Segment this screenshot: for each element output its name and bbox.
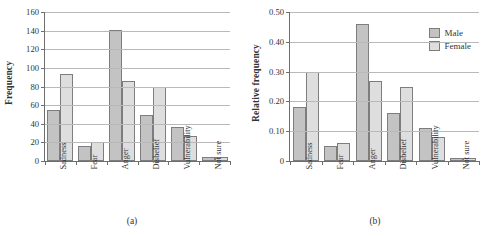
y-axis-tick-label: 40 [30,119,39,129]
x-axis-tick [353,161,354,165]
x-axis-tick-label: Vulnerability [182,125,191,169]
y-axis-tick [286,12,290,13]
plot-area-a: 020406080100120140160SadnessFearAngerDis… [44,12,230,162]
y-axis-tick [41,31,45,32]
plot-area-b: MaleFemale 00.100.200.300.400.50SadnessF… [289,12,479,162]
panel-caption-b: (b) [253,216,489,226]
x-axis-tick-label: Fear [90,154,99,169]
gridline [45,12,230,13]
figure: Frequency 020406080100120140160SadnessFe… [0,0,489,238]
gridline [290,131,479,132]
y-axis-tick [41,12,45,13]
x-axis-tick [199,161,200,165]
y-axis-tick-label: 100 [26,63,39,73]
x-axis-tick-label: Fear [336,154,345,169]
y-axis-tick-label: 120 [26,44,39,54]
chart-panel-a: Frequency 020406080100120140160SadnessFe… [0,0,244,238]
gridline [45,87,230,88]
y-axis-tick [41,105,45,106]
gridline [290,12,479,13]
y-axis-tick-label: 80 [30,82,39,92]
x-axis-tick [45,161,46,165]
y-axis-title-a-label: Frequency [4,61,14,105]
y-axis-title-b-label: Relative frequency [251,44,261,122]
y-axis-tick [41,124,45,125]
y-axis-tick [286,131,290,132]
legend-swatch-male [429,28,440,38]
x-axis-tick [479,161,480,165]
y-axis-tick-label: 0.50 [269,7,284,17]
x-axis-tick-label: Not sure [462,140,471,169]
y-axis-tick-label: 0 [280,156,284,166]
y-axis-tick [286,42,290,43]
y-axis-tick-label: 0.40 [269,37,284,47]
chart-panel-b: Relative frequency MaleFemale 00.100.200… [245,0,489,238]
gridline [290,101,479,102]
x-axis-tick-label: Disbelief [151,138,160,169]
y-axis-tick [41,87,45,88]
panel-caption-a: (a) [10,216,254,226]
y-axis-tick-label: 160 [26,7,39,17]
y-axis-tick-label: 60 [30,100,39,110]
x-axis-tick-label: Not sure [213,140,222,169]
gridline [45,49,230,50]
x-axis-tick [448,161,449,165]
y-axis-tick-label: 0.30 [269,67,284,77]
x-axis-tick [107,161,108,165]
y-axis-tick [41,68,45,69]
x-axis-tick [76,161,77,165]
x-axis-tick [290,161,291,165]
y-axis-tick-label: 20 [30,137,39,147]
x-axis-tick-label: Vulnerability [430,125,439,169]
y-axis-tick [286,101,290,102]
y-axis-tick-label: 0.10 [269,126,284,136]
x-axis-tick [230,161,231,165]
x-axis-tick [385,161,386,165]
y-axis-tick [286,72,290,73]
x-axis-tick-label: Sadness [304,142,313,169]
gridline [45,31,230,32]
y-axis-tick-label: 0 [35,156,39,166]
gridline [45,105,230,106]
gridline [45,68,230,69]
legend: MaleFemale [426,24,476,54]
x-axis-tick [168,161,169,165]
gridline [45,124,230,125]
x-axis-tick-label: Disbelief [399,138,408,169]
x-axis-tick-label: Anger [367,148,376,169]
bar-male-anger [356,24,369,161]
x-axis-tick [138,161,139,165]
gridline [290,42,479,43]
legend-label-male: Male [445,28,464,38]
y-axis-tick [41,49,45,50]
x-axis-tick [416,161,417,165]
legend-item-male: Male [429,26,472,39]
y-axis-tick [41,142,45,143]
y-axis-title-a: Frequency [0,0,18,165]
y-axis-tick-label: 0.20 [269,96,284,106]
y-axis-title-b: Relative frequency [247,0,265,165]
x-axis-tick-label: Anger [121,148,130,169]
y-axis-tick-label: 140 [26,26,39,36]
x-axis-tick [322,161,323,165]
gridline [45,142,230,143]
x-axis-tick-label: Sadness [59,142,68,169]
gridline [290,72,479,73]
